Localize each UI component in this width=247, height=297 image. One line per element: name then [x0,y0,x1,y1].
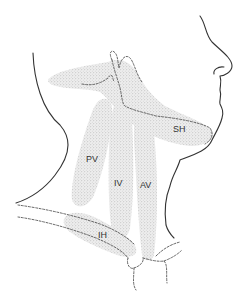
region-iv [109,96,134,237]
label-sh: SH [173,124,186,134]
label-iv: IV [114,178,123,188]
neck-lymph-region-diagram: PV IV AV SH IH [0,0,247,297]
label-pv: PV [86,154,98,164]
label-av: AV [140,180,151,190]
label-ih: IH [98,230,107,240]
region-pv [72,99,113,207]
